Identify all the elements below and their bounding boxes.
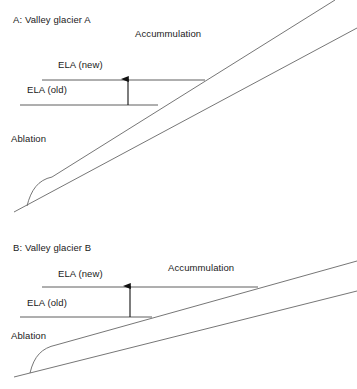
- panel-a-ablation-label: Ablation: [11, 133, 46, 144]
- panel-a-ela-new-label: ELA (new): [58, 59, 103, 70]
- panel-a-accumulation-label: Accummulation: [135, 28, 201, 39]
- panel-b-title: B: Valley glacier B: [13, 242, 91, 253]
- panel-b-accumulation-label: Accummulation: [168, 262, 234, 273]
- panel-b-ela-new-label: ELA (new): [58, 268, 103, 279]
- glacier-ela-figure: A: Valley glacier A Accummulation ELA (n…: [0, 0, 357, 389]
- panel-a-ela-old-label: ELA (old): [27, 84, 67, 95]
- figure-canvas: [0, 0, 357, 389]
- panel-b-ablation-label: Ablation: [11, 330, 46, 341]
- panel-b-ela-old-label: ELA (old): [27, 297, 67, 308]
- panel-a-ground-line: [14, 28, 357, 212]
- panel-a-title: A: Valley glacier A: [13, 14, 91, 25]
